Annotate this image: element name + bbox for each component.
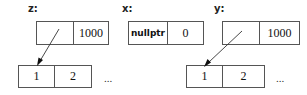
arrow-y-to-array xyxy=(204,31,242,67)
arrow-z-to-array xyxy=(37,29,59,66)
arrows-layer xyxy=(0,0,307,95)
diagram: z: 1000 x: nullptr 0 y: 1000 1 2 ... 1 2… xyxy=(0,0,307,95)
